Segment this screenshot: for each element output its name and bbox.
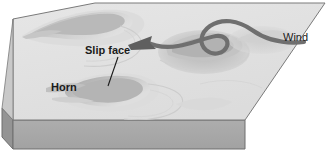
label-wind: Wind	[283, 31, 308, 43]
block-front-face	[13, 120, 245, 149]
barchan-dune-block-diagram: Slip face Horn Wind	[0, 0, 330, 157]
diagram-canvas	[0, 0, 330, 157]
block-top-bevel	[2, 19, 13, 120]
label-horn: Horn	[51, 81, 77, 93]
label-slip-face: Slip face	[85, 44, 130, 56]
